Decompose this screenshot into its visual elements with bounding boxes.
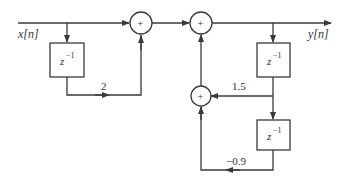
delay-base: z [266, 55, 272, 67]
output-label: y[n] [307, 27, 329, 41]
delay-block-feedback-2 [257, 120, 290, 150]
input-label: x[n] [17, 27, 39, 41]
delay-block-input [50, 43, 84, 77]
gain-feedforward: 2 [101, 80, 107, 92]
adder-1-symbol: + [138, 18, 144, 29]
delay-exponent: −1 [66, 51, 75, 60]
adder-2-symbol: + [198, 18, 204, 29]
delay-base: z [59, 55, 65, 67]
gain-feedback-2: −0.9 [226, 155, 246, 167]
delay-block-feedback-1 [257, 43, 290, 77]
delay-base: z [266, 130, 272, 142]
delay-exponent: −1 [273, 51, 282, 60]
adder-3-symbol: + [198, 91, 204, 102]
delay-exponent: −1 [273, 126, 282, 135]
block-diagram: x[n] z −1 2 + + y[n] z −1 1.5 + z −1 −0.… [0, 0, 344, 181]
gain-feedback-1: 1.5 [232, 80, 246, 92]
